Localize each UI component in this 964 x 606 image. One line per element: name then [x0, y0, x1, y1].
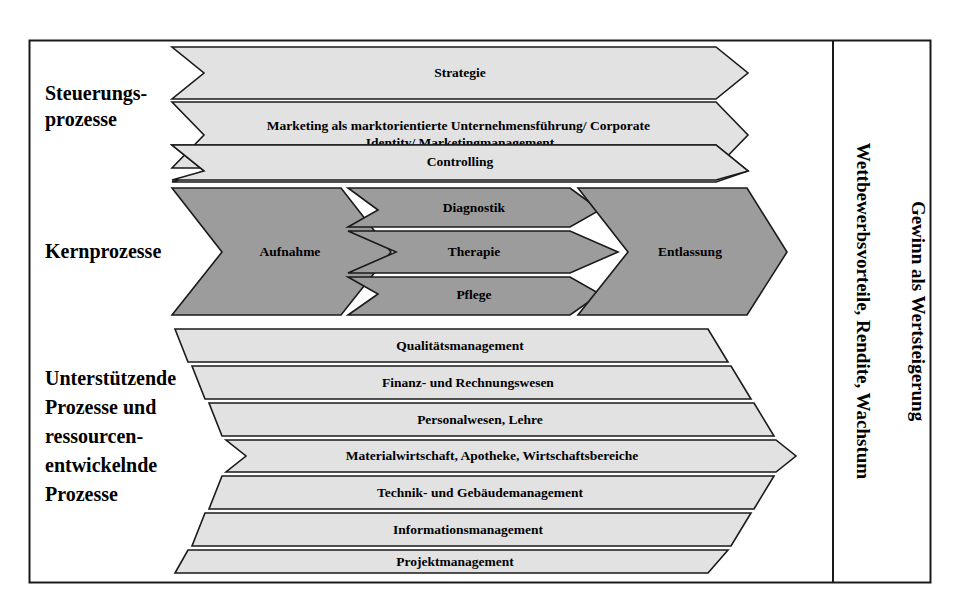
band-therapie-label: Therapie: [448, 244, 501, 259]
outcome-wettbewerbsvorteile: Wettbewerbsvorteile, Rendite, Wachstum: [853, 143, 874, 479]
band-strategie[interactable]: Strategie: [172, 47, 748, 99]
band-projektmanagement-label: Projektmanagement: [396, 554, 514, 569]
band-personalwesen-lehre-label: Personalwesen, Lehre: [417, 412, 543, 427]
outcome-gewinn: Gewinn als Wertsteigerung: [908, 201, 929, 422]
band-diagnostik-label: Diagnostik: [443, 200, 506, 215]
band-controlling[interactable]: Controlling: [172, 145, 748, 182]
band-materialwirtschaft[interactable]: Materialwirtschaft, Apotheke, Wirtschaft…: [226, 440, 796, 472]
band-personalwesen-lehre[interactable]: Personalwesen, Lehre: [209, 403, 774, 436]
band-finanz-rechnungswesen[interactable]: Finanz- und Rechnungswesen: [192, 366, 751, 399]
band-qualitaetsmanagement[interactable]: Qualitätsmanagement: [175, 329, 728, 362]
section-label-kernprozesse: Kernprozesse: [45, 240, 161, 263]
band-controlling-label: Controlling: [427, 154, 494, 169]
band-informationsmanagement[interactable]: Informationsmanagement: [192, 513, 751, 546]
band-technik-gebaeudemanagement[interactable]: Technik- und Gebäudemanagement: [209, 476, 774, 509]
band-aufnahme-label: Aufnahme: [260, 244, 321, 259]
band-qualitaetsmanagement-label: Qualitätsmanagement: [396, 338, 524, 353]
diagram-canvas: Steuerungs- prozesse Strategie Marketing…: [0, 0, 964, 606]
band-finanz-rechnungswesen-label: Finanz- und Rechnungswesen: [382, 375, 554, 390]
band-diagnostik[interactable]: Diagnostik: [348, 188, 600, 227]
band-strategie-label: Strategie: [434, 65, 486, 80]
band-entlassung-label: Entlassung: [658, 244, 722, 259]
band-informationsmanagement-label: Informationsmanagement: [393, 522, 543, 537]
band-projektmanagement[interactable]: Projektmanagement: [175, 550, 728, 573]
band-materialwirtschaft-label: Materialwirtschaft, Apotheke, Wirtschaft…: [346, 448, 638, 463]
band-pflege-label: Pflege: [456, 287, 491, 302]
band-pflege[interactable]: Pflege: [348, 277, 600, 315]
band-technik-gebaeudemanagement-label: Technik- und Gebäudemanagement: [377, 485, 583, 500]
process-landscape-diagram: Steuerungs- prozesse Strategie Marketing…: [0, 0, 964, 606]
